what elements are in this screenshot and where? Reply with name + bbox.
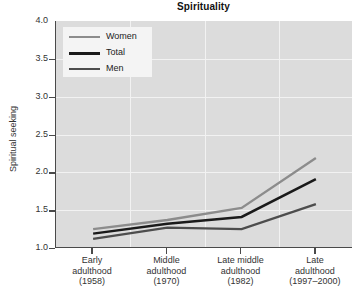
y-tick-label: 3.0 — [8, 91, 48, 101]
legend-item-women[interactable]: Women — [63, 29, 152, 45]
legend-swatch-women — [69, 36, 100, 38]
legend-label-men: Men — [106, 63, 124, 73]
y-tick-mark — [49, 248, 55, 249]
y-tick-label: 1.5 — [8, 204, 48, 214]
x-tick-label-line: adulthood — [269, 266, 361, 277]
chart-title: Spirituality — [55, 1, 352, 12]
x-tick-mark — [166, 248, 167, 254]
series-line-women — [93, 158, 316, 229]
y-tick-label: 4.0 — [8, 15, 48, 25]
legend-item-total[interactable]: Total — [63, 45, 152, 61]
legend-label-women: Women — [106, 31, 137, 41]
legend-swatch-total — [69, 52, 100, 55]
legend-swatch-men — [69, 68, 100, 70]
y-tick-label: 2.5 — [8, 129, 48, 139]
x-tick-label: Lateadulthood(1997–2000) — [269, 255, 361, 286]
x-tick-label-line: Late — [269, 255, 361, 266]
chart-legend: WomenTotalMen — [63, 27, 152, 77]
x-tick-mark — [240, 248, 241, 254]
x-tick-label-line: (1997–2000) — [269, 276, 361, 286]
chart-figure: Spirituality Spiritual seeking 4.03.53.0… — [0, 0, 361, 286]
legend-item-men[interactable]: Men — [63, 61, 152, 77]
y-tick-label: 3.5 — [8, 53, 48, 63]
x-tick-mark — [314, 248, 315, 254]
legend-label-total: Total — [106, 47, 125, 57]
y-tick-label: 1.0 — [8, 242, 48, 252]
x-tick-mark — [91, 248, 92, 254]
y-tick-label: 2.0 — [8, 166, 48, 176]
